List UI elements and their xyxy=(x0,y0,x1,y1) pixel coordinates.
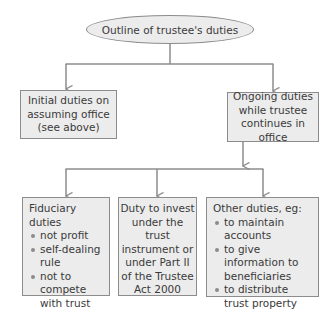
node-line: Initial duties on xyxy=(28,94,109,108)
list-item: to distribute trust property xyxy=(213,283,314,310)
list-item: not profit xyxy=(29,229,105,243)
node-line: under the trust xyxy=(119,216,196,243)
node-heading: Other duties, eg: xyxy=(213,202,314,216)
bullet-list: to maintain accounts to give information… xyxy=(213,216,314,311)
node-line: assuming office xyxy=(27,108,110,122)
node-line: under Part II xyxy=(125,256,189,270)
node-heading: Fiduciary duties xyxy=(29,202,105,229)
initial-duties-node: Initial duties on assuming office (see a… xyxy=(20,90,117,139)
node-line: (see above) xyxy=(37,121,99,135)
node-line: Ongoing duties xyxy=(233,90,313,104)
other-duties-node: Other duties, eg: to maintain accounts t… xyxy=(206,197,319,297)
node-line: Act 2000 xyxy=(134,283,181,297)
fiduciary-duties-node: Fiduciary duties not profit self-dealing… xyxy=(22,197,110,296)
list-item: to give information to beneficiaries xyxy=(213,243,314,284)
node-line: Duty to invest xyxy=(120,202,194,216)
list-item: to maintain accounts xyxy=(213,216,314,243)
node-line: while trustee xyxy=(239,104,307,118)
root-node: Outline of trustee's duties xyxy=(86,15,254,44)
list-item: not to compete with trust xyxy=(29,270,105,311)
duty-to-invest-node: Duty to invest under the trust instrumen… xyxy=(118,197,197,296)
node-line: continues in office xyxy=(228,117,318,144)
root-label: Outline of trustee's duties xyxy=(102,24,238,36)
list-item: self-dealing rule xyxy=(29,243,105,270)
node-line: of the Trustee xyxy=(121,270,193,284)
node-line: instrument or xyxy=(122,243,194,257)
bullet-list: not profit self-dealing rule not to comp… xyxy=(29,229,105,310)
ongoing-duties-node: Ongoing duties while trustee continues i… xyxy=(227,92,319,142)
